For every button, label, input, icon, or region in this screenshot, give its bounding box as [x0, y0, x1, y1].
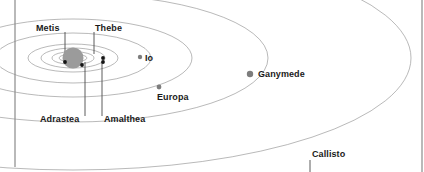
orbit-ellipses-group — [0, 0, 411, 170]
moon-dots-group — [63, 55, 253, 90]
moon-dot-metis — [63, 60, 67, 64]
moon-dot-adrastea — [80, 63, 84, 67]
axis-lines-group — [15, 0, 422, 172]
moon-label-io: Io — [145, 53, 153, 63]
moon-label-ganymede: Ganymede — [258, 69, 305, 79]
moon-dot-io — [138, 55, 142, 59]
moon-label-callisto: Callisto — [312, 149, 345, 159]
moon-dot-ganymede — [247, 71, 253, 77]
diagram-canvas — [0, 0, 424, 172]
moon-label-amalthea: Amalthea — [104, 114, 145, 124]
orbital-diagram-figure: MetisThebeAdrasteaAmaltheaIoEuropaGanyme… — [0, 0, 424, 172]
moon-label-thebe: Thebe — [95, 23, 122, 33]
moon-dot-europa — [157, 85, 162, 90]
leader-lines-group — [65, 32, 310, 172]
callisto-orbit — [0, 0, 411, 170]
moon-label-metis: Metis — [36, 23, 60, 33]
moon-label-europa: Europa — [157, 92, 189, 102]
moon-dot-amalthea — [101, 60, 105, 64]
moon-dot-thebe — [101, 56, 105, 60]
moon-label-adrastea: Adrastea — [40, 114, 79, 124]
ganymede-orbit — [0, 0, 268, 122]
